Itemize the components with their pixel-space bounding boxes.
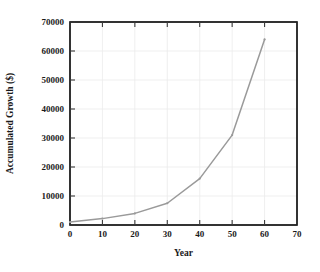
y-tick-labels: 010000200003000040000500006000070000 xyxy=(42,17,65,230)
y-tick-label: 30000 xyxy=(42,133,65,143)
y-tick-label: 70000 xyxy=(42,17,65,27)
x-tick-label: 20 xyxy=(130,229,140,239)
line-chart: 010203040506070 010000200003000040000500… xyxy=(0,0,320,272)
y-tick-label: 10000 xyxy=(42,191,65,201)
x-axis-title: Year xyxy=(174,248,194,258)
x-tick-label: 10 xyxy=(98,229,108,239)
plot-area-background xyxy=(70,22,297,225)
x-tick-label: 30 xyxy=(163,229,173,239)
x-tick-label: 70 xyxy=(293,229,303,239)
x-tick-label: 0 xyxy=(68,229,73,239)
y-tick-label: 40000 xyxy=(42,104,65,114)
x-tick-label: 50 xyxy=(228,229,238,239)
y-tick-label: 20000 xyxy=(42,162,65,172)
y-axis-title: Accumulated Growth ($) xyxy=(5,73,16,174)
y-tick-label: 50000 xyxy=(42,75,65,85)
y-tick-label: 60000 xyxy=(42,46,65,56)
x-tick-label: 40 xyxy=(195,229,205,239)
chart-figure: 010203040506070 010000200003000040000500… xyxy=(0,0,320,272)
x-tick-labels: 010203040506070 xyxy=(68,229,302,239)
y-tick-label: 0 xyxy=(60,220,65,230)
x-tick-label: 60 xyxy=(260,229,270,239)
